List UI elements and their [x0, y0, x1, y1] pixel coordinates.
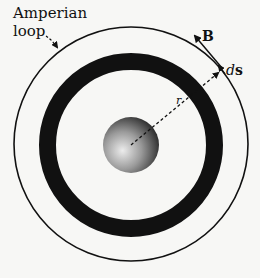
amperian-pointer-arrow	[46, 36, 57, 47]
b-field-label: B	[202, 29, 214, 43]
ds-label: ds	[226, 63, 243, 77]
radius-label: r	[176, 95, 181, 106]
diagram-canvas	[0, 0, 260, 278]
amperian-label-line2: loop	[13, 24, 45, 39]
amperian-loop-diagram: Amperian loop B ds r	[0, 0, 260, 278]
ds-label-d: d	[226, 62, 235, 78]
ds-label-s: s	[235, 62, 243, 78]
amperian-label-line1: Amperian	[13, 6, 87, 21]
